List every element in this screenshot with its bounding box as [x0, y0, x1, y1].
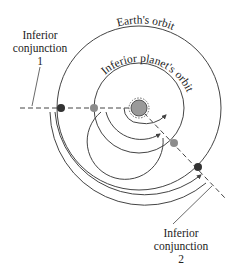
leader-line-2 [173, 186, 212, 224]
earth-position-2 [194, 163, 202, 171]
label-line: conjunction [143, 240, 219, 253]
orbital-diagram: Earth's orbit Inferior planet's orbit In… [0, 0, 237, 268]
label-line: conjunction [2, 42, 78, 55]
leader-line-1 [32, 67, 40, 106]
earth-orbit-label: Earth's orbit [115, 13, 177, 32]
label-number: 1 [2, 55, 78, 68]
label-number: 2 [143, 253, 219, 266]
inferior-orbit-label: Inferior planet's orbit [99, 52, 197, 95]
planet-position-1 [90, 104, 98, 112]
conjunction-1-label: Inferior conjunction 1 [2, 29, 78, 68]
earth-position-1 [57, 104, 65, 112]
label-line: Inferior [143, 227, 219, 240]
earth-motion-arc-1 [55, 112, 201, 195]
planet-motion-arc-1 [87, 112, 163, 179]
earth-motion-arc-2 [50, 112, 206, 205]
label-line: Inferior [2, 29, 78, 42]
conjunction-2-label: Inferior conjunction 2 [143, 227, 219, 266]
planet-position-2 [170, 139, 178, 147]
